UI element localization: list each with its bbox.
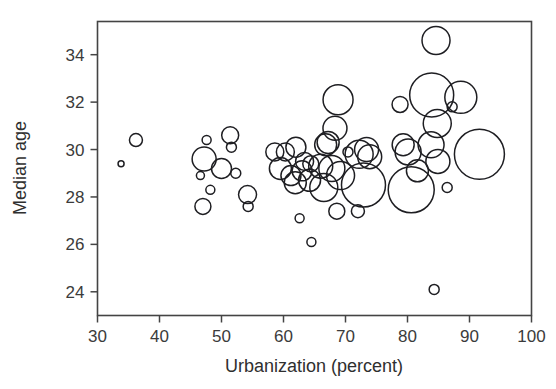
x-tick-label: 70 bbox=[336, 327, 355, 346]
chart-canvas: 30405060708090100 242628303234 Urbanizat… bbox=[0, 0, 556, 389]
data-point-bubble bbox=[295, 214, 304, 223]
data-point-bubble bbox=[341, 163, 385, 207]
data-point-bubble bbox=[442, 182, 452, 192]
data-point-bubble bbox=[395, 139, 421, 165]
x-tick-label: 90 bbox=[460, 327, 479, 346]
data-point-bubble bbox=[358, 145, 382, 169]
data-point-bubble bbox=[195, 198, 211, 214]
x-tick-label: 40 bbox=[150, 327, 169, 346]
data-point-bubble bbox=[323, 85, 353, 115]
data-point-bubble bbox=[422, 26, 450, 54]
y-tick-label: 28 bbox=[66, 188, 85, 207]
y-tick-label: 34 bbox=[66, 46, 85, 65]
data-point-bubble bbox=[307, 238, 316, 247]
y-axis-title: Median age bbox=[10, 121, 30, 215]
x-tick-label: 60 bbox=[274, 327, 293, 346]
data-point-bubble bbox=[284, 172, 306, 194]
data-point-bubble bbox=[202, 136, 211, 145]
x-tick-label: 100 bbox=[517, 327, 545, 346]
data-point-bubble bbox=[206, 185, 215, 194]
data-point-bubble bbox=[212, 159, 232, 179]
x-axis-title: Urbanization (percent) bbox=[225, 356, 403, 376]
data-point-bubble bbox=[323, 116, 347, 140]
data-point-bubble bbox=[445, 81, 477, 113]
data-point-bubble bbox=[196, 172, 204, 180]
x-tick-label: 30 bbox=[88, 327, 107, 346]
bubble-chart-figure: 30405060708090100 242628303234 Urbanizat… bbox=[0, 0, 556, 389]
data-point-bubble bbox=[129, 134, 142, 147]
y-tick-label: 32 bbox=[66, 93, 85, 112]
x-axis-ticks: 30405060708090100 bbox=[88, 316, 546, 346]
data-point-bubble bbox=[429, 284, 439, 294]
x-tick-label: 50 bbox=[212, 327, 231, 346]
data-point-bubble bbox=[392, 96, 408, 112]
bubble-series bbox=[118, 26, 504, 294]
y-tick-label: 26 bbox=[66, 235, 85, 254]
data-point-bubble bbox=[231, 168, 241, 178]
plot-frame bbox=[98, 22, 532, 316]
y-tick-label: 24 bbox=[66, 283, 85, 302]
y-axis-ticks: 242628303234 bbox=[66, 46, 98, 302]
data-point-bubble bbox=[454, 129, 504, 179]
y-tick-label: 30 bbox=[66, 141, 85, 160]
data-point-bubble bbox=[192, 147, 216, 171]
data-point-bubble bbox=[222, 127, 239, 144]
x-tick-label: 80 bbox=[398, 327, 417, 346]
data-point-bubble bbox=[329, 203, 345, 219]
data-point-bubble bbox=[426, 149, 450, 173]
data-point-bubble bbox=[286, 137, 306, 157]
data-point-bubble bbox=[118, 161, 124, 167]
